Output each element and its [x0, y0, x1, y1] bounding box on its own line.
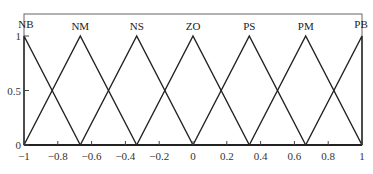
y-tick-label: 1 [16, 30, 22, 42]
x-tick-label: 0 [190, 150, 196, 162]
x-tick-label: −0.4 [115, 150, 135, 162]
x-tick-label: 0.2 [220, 150, 234, 162]
fuzzy-set-labels: NBNMNSZOPSPMPB [18, 18, 367, 32]
y-tick-label: 0 [16, 139, 22, 151]
y-axis-ticks: 00.51 [7, 30, 29, 151]
x-tick-label: −0.2 [149, 150, 169, 162]
set-label-nb: NB [18, 18, 33, 30]
set-label-ns: NS [130, 20, 144, 32]
curve-pm [249, 36, 362, 145]
curve-ns [80, 36, 193, 145]
x-tick-label: −0.8 [48, 150, 68, 162]
set-label-nm: NM [71, 20, 89, 32]
x-tick-label: 1 [359, 150, 365, 162]
set-label-pm: PM [298, 20, 314, 32]
curve-nm [24, 36, 137, 145]
membership-curves [24, 36, 362, 145]
set-label-ps: PS [243, 20, 255, 32]
x-tick-label: −0.6 [82, 150, 102, 162]
x-tick-label: 0.8 [321, 150, 335, 162]
plot-frame [24, 14, 362, 145]
x-tick-label: 0.6 [288, 150, 302, 162]
x-tick-label: −1 [18, 150, 30, 162]
set-label-zo: ZO [186, 20, 201, 32]
curve-ps [193, 36, 306, 145]
curve-zo [137, 36, 250, 145]
set-label-pb: PB [354, 18, 367, 30]
x-tick-label: 0.4 [254, 150, 268, 162]
y-tick-label: 0.5 [7, 85, 21, 97]
membership-function-chart: −1−0.8−0.6−0.4−0.200.20.40.60.81 00.51 N… [0, 0, 373, 174]
